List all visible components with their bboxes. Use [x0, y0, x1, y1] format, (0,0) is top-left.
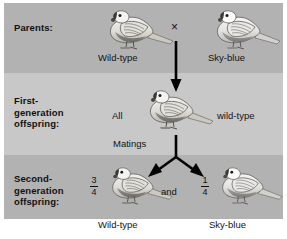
- stage-label-f2-line2: generation: [14, 185, 64, 197]
- sky-blue-parent-bird: [203, 8, 281, 54]
- caption-parent-left: Wild-type: [98, 52, 138, 63]
- caption-f2-left: Wild-type: [98, 219, 138, 230]
- f2-sky-blue-bird: [209, 165, 283, 209]
- f1-wild-type-bird: [136, 88, 214, 134]
- stage-label-parents: Parents:: [14, 22, 53, 34]
- stage-label-first-generation: First- generation offspring:: [14, 95, 64, 130]
- f1-quantifier: All: [112, 110, 123, 121]
- budgerigar-illustration-f2-skyblue: [209, 165, 283, 209]
- caption-f2-right: Sky-blue: [209, 219, 246, 230]
- genetics-cross-figure: Parents:: [0, 0, 287, 239]
- wild-type-parent-bird: [96, 8, 174, 54]
- f1-phenotype: wild-type: [217, 110, 255, 121]
- stage-label-f2-line3: offspring:: [14, 196, 64, 208]
- budgerigar-illustration-wildtype: [96, 8, 174, 54]
- stage-label-f1-line2: generation: [14, 107, 64, 119]
- stage-label-parents-line1: Parents:: [14, 22, 53, 34]
- stage-label-f2-line1: Second-: [14, 173, 64, 185]
- matings-label: Matings: [113, 138, 146, 149]
- stage-label-f1-line1: First-: [14, 95, 64, 107]
- stage-label-f1-line3: offspring:: [14, 118, 64, 130]
- cross-symbol-icon: ×: [171, 20, 178, 34]
- conjunction-and: and: [161, 186, 177, 197]
- budgerigar-illustration-skyblue: [203, 8, 281, 54]
- caption-parent-right: Sky-blue: [208, 52, 245, 63]
- stage-label-second-generation: Second- generation offspring:: [14, 173, 64, 208]
- budgerigar-illustration-f1: [136, 88, 214, 134]
